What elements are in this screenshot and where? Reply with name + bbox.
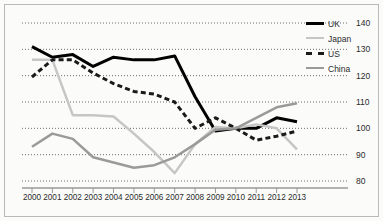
legend-swatch-china-icon — [306, 64, 324, 74]
y-tick-label: 100 — [356, 123, 382, 133]
legend-label-china: China — [328, 64, 350, 74]
y-tick-label: 90 — [356, 150, 382, 160]
legend-swatch-uk-icon — [306, 19, 324, 29]
y-tick-label: 80 — [356, 176, 382, 186]
legend-swatch-japan-icon — [306, 34, 324, 44]
legend-label-uk: UK — [328, 19, 340, 29]
line-chart-figure: UK Japan US China 8090100110120130140 20… — [0, 0, 383, 221]
y-tick-label: 110 — [356, 97, 382, 107]
legend-label-us: US — [328, 49, 340, 59]
y-tick-label: 140 — [356, 18, 382, 28]
legend-swatch-us-icon — [306, 49, 324, 59]
data-series-group — [32, 47, 297, 173]
legend-label-japan: Japan — [328, 34, 351, 44]
x-tick-label: 2013 — [284, 193, 310, 202]
y-tick-label: 120 — [356, 71, 382, 81]
y-tick-label: 130 — [356, 44, 382, 54]
